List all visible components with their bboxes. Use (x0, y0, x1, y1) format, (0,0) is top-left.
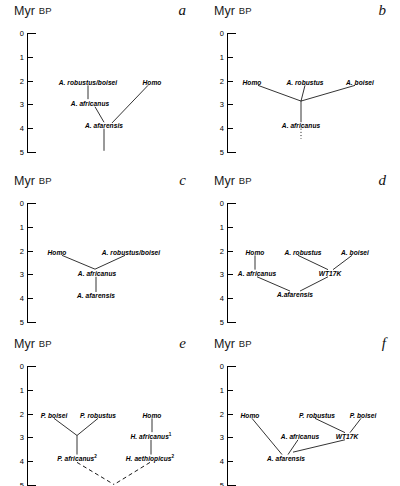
taxon-name: A. robustus/boisei (102, 248, 160, 255)
taxon-name: Homo (48, 248, 67, 255)
taxon-name: A. robustus (286, 78, 323, 85)
taxon-name: Homo (241, 411, 260, 418)
taxon-name: Homo (143, 78, 162, 85)
taxon-label: A. boisei (346, 78, 374, 85)
taxon-footnote-marker: 1 (169, 432, 172, 437)
taxon-name: A. robustus (284, 248, 321, 255)
taxon-label: Homo (246, 248, 265, 255)
taxon-name: P. africanus (57, 455, 94, 462)
taxon-label: A. robustus/boisei (102, 248, 160, 255)
taxon-name: WT17K (319, 270, 342, 277)
taxon-label: A. robustus (286, 78, 323, 85)
taxon-name: A. africanus (238, 270, 276, 277)
taxon-label: A.afarensis (277, 290, 313, 297)
taxon-label: P. africanus2 (57, 454, 97, 462)
taxon-label: Homo (143, 411, 162, 418)
panel-b: Myr BPb012345HomoA. robustusA. boiseiA. … (200, 0, 400, 162)
taxon-label: A. africanus (282, 122, 320, 129)
taxon-label: A. robustus (284, 248, 321, 255)
taxon-label: A. africanus (71, 100, 109, 107)
taxon-name: A. africanus (78, 270, 116, 277)
panel-c: Myr BPc012345HomoA. robustus/boiseiA. af… (0, 170, 200, 332)
taxon-label: P. robustus (80, 411, 116, 418)
taxon-label: A. afarensis (85, 122, 123, 129)
taxon-name: A.afarensis (277, 290, 313, 297)
taxon-label: Homo (143, 78, 162, 85)
taxon-name: H. africanus (131, 433, 169, 440)
taxon-label: Homo (241, 411, 260, 418)
taxon-name: A. afarensis (267, 455, 305, 462)
taxon-label: A. africanus (78, 270, 116, 277)
taxon-label: A. africanus (238, 270, 276, 277)
taxon-label: A. africanus (281, 433, 319, 440)
taxon-name: P. boisei (41, 411, 68, 418)
taxon-name: A. boisei (346, 78, 374, 85)
taxon-label: Homo (243, 78, 262, 85)
taxon-label: A. afarensis (77, 292, 115, 299)
taxon-name: P. boisei (350, 411, 377, 418)
taxon-label: WT17K (336, 433, 359, 440)
taxon-name: P. robustus (80, 411, 116, 418)
taxon-label: WT17K (319, 270, 342, 277)
taxon-label: H. africanus1 (131, 432, 172, 440)
taxon-label: A. boisei (341, 248, 369, 255)
taxon-name: Homo (243, 78, 262, 85)
taxon-name: P. robustus (299, 411, 335, 418)
taxon-name: A. afarensis (77, 292, 115, 299)
taxon-label: P. robustus (299, 411, 335, 418)
taxon-name: A. africanus (282, 122, 320, 129)
taxon-label: H. aethiopicus2 (126, 454, 174, 462)
tree-nodes: HomoA. robustus/boiseiA. africanusA. afa… (0, 170, 200, 332)
taxon-name: A. boisei (341, 248, 369, 255)
tree-nodes: HomoA. robustusA. boiseiA. africanus (200, 0, 400, 162)
taxon-label: P. boisei (350, 411, 377, 418)
tree-nodes: HomoP. robustusP. boiseiA. africanusWT17… (200, 333, 400, 486)
taxon-name: A. robustus/boisei (59, 78, 117, 85)
taxon-label: Homo (48, 248, 67, 255)
taxon-name: Homo (143, 411, 162, 418)
panel-a: Myr BPa012345A. robustus/boiseiA. africa… (0, 0, 200, 162)
taxon-name: A. africanus (71, 100, 109, 107)
panel-d: Myr BPd012345HomoA. robustusA. boiseiA. … (200, 170, 400, 332)
tree-nodes: P. boiseiP. robustusHomoH. africanus1P. … (0, 333, 200, 486)
taxon-label: A. robustus/boisei (59, 78, 117, 85)
panel-f: Myr BPf012345HomoP. robustusP. boiseiA. … (200, 333, 400, 486)
tree-nodes: A. robustus/boiseiA. africanusA. afarens… (0, 0, 200, 162)
taxon-footnote-marker: 2 (172, 454, 175, 459)
panel-e: Myr BPe012345P. boiseiP. robustusHomoH. … (0, 333, 200, 486)
taxon-label: P. boisei (41, 411, 68, 418)
taxon-name: H. aethiopicus (126, 455, 172, 462)
hominid-phylogeny-figure: Myr BPa012345A. robustus/boiseiA. africa… (0, 0, 400, 486)
taxon-name: Homo (246, 248, 265, 255)
tree-nodes: HomoA. robustusA. boiseiA. africanusWT17… (200, 170, 400, 332)
taxon-label: A. afarensis (267, 455, 305, 462)
taxon-footnote-marker: 2 (94, 454, 97, 459)
taxon-name: WT17K (336, 433, 359, 440)
taxon-name: A. afarensis (85, 122, 123, 129)
taxon-name: A. africanus (281, 433, 319, 440)
